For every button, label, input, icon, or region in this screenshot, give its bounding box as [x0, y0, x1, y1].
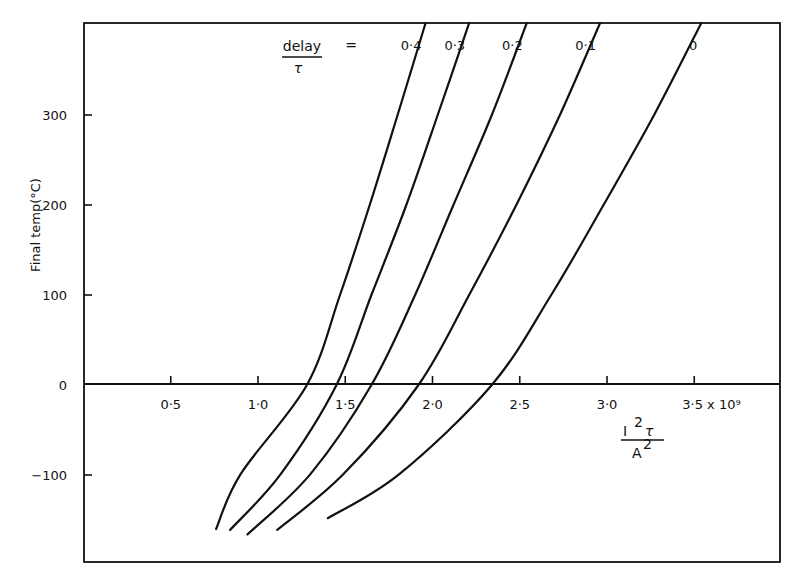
legend-equals: =: [345, 37, 357, 53]
legend-title-numerator: delay: [283, 38, 321, 54]
y-tick-label: 0: [59, 378, 67, 393]
legend-label: 0·3: [444, 38, 465, 53]
x-tick-label: 2·5: [509, 397, 530, 412]
legend-title-denominator: τ: [294, 60, 303, 76]
x-title-denominator-exp: 2: [643, 436, 652, 452]
legend-label: 0·2: [502, 38, 523, 53]
x-tick-label: 1·0: [248, 397, 269, 412]
x-axis-ticks: 0·51·01·52·02·53·03·5 x 10⁹: [160, 376, 740, 412]
curve-delay-0·4: [216, 23, 425, 529]
plot-frame: [84, 23, 780, 562]
x-tick-label: 3·5 x 10⁹: [682, 397, 740, 412]
x-title-numerator-exp: 2: [634, 414, 643, 430]
y-tick-label: 100: [42, 288, 67, 303]
legend: 0·40·30·20·10: [401, 38, 697, 53]
x-tick-label: 2·0: [422, 397, 443, 412]
chart-canvas: 3002001000−100 0·51·01·52·02·53·03·5 x 1…: [0, 0, 797, 578]
x-title-numerator-base: I: [623, 423, 627, 439]
legend-label: 0·4: [401, 38, 422, 53]
x-axis-title: I 2 τ A 2: [621, 414, 664, 461]
y-axis-title: Final temp(°C): [28, 178, 43, 272]
curve-delay-0·2: [248, 23, 527, 534]
curves: [216, 23, 701, 534]
x-tick-label: 0·5: [160, 397, 181, 412]
y-tick-label: 300: [42, 108, 67, 123]
x-title-denominator-base: A: [632, 445, 642, 461]
y-axis-ticks: 3002001000−100: [31, 108, 92, 483]
y-tick-label: −100: [31, 468, 67, 483]
x-tick-label: 1·5: [335, 397, 356, 412]
legend-label: 0: [689, 38, 697, 53]
curve-delay-0·3: [230, 23, 469, 530]
legend-label: 0·1: [575, 38, 596, 53]
x-tick-label: 3·0: [597, 397, 618, 412]
y-tick-label: 200: [42, 198, 67, 213]
